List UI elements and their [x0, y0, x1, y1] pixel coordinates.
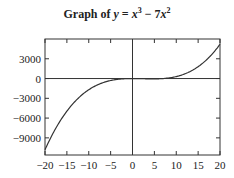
- y-tick-label: −9000: [13, 132, 42, 144]
- y-tick-label: −3000: [13, 92, 42, 104]
- chart-plot: −20−15−10−50510152030000−3000−6000−9000: [0, 0, 234, 178]
- x-tick-label: 10: [171, 159, 183, 171]
- x-tick-label: 5: [152, 159, 158, 171]
- y-tick-label: 3000: [19, 53, 42, 65]
- x-tick-label: 15: [193, 159, 205, 171]
- x-tick-label: −20: [36, 159, 54, 171]
- y-tick-label: −6000: [13, 112, 42, 124]
- x-tick-label: −10: [80, 159, 98, 171]
- x-tick-label: −5: [105, 159, 117, 171]
- x-tick-label: −15: [58, 159, 76, 171]
- y-tick-label: 0: [36, 73, 42, 85]
- x-tick-label: 20: [215, 159, 227, 171]
- x-tick-label: 0: [130, 159, 136, 171]
